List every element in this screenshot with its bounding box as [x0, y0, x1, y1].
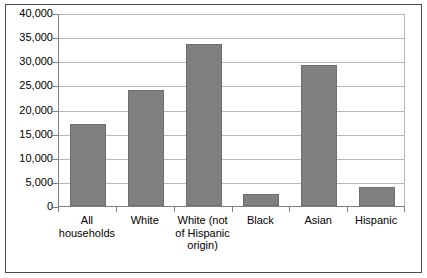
y-axis-tick-mark — [53, 135, 58, 136]
x-axis-tick-mark — [232, 207, 233, 212]
gridline — [59, 111, 404, 112]
x-axis-ticks — [58, 207, 405, 213]
y-axis-tick-mark — [53, 111, 58, 112]
y-axis-tick-label: 25,000 — [19, 80, 53, 91]
y-axis-tick-mark — [53, 62, 58, 63]
x-axis-tick-mark — [58, 207, 59, 212]
bar — [301, 65, 337, 206]
y-axis-tick-mark — [53, 38, 58, 39]
x-axis-tick-mark — [289, 207, 290, 212]
plot-area — [58, 14, 405, 207]
gridline — [59, 159, 404, 160]
x-axis-tick-mark — [404, 207, 405, 212]
y-axis-tick-mark — [53, 86, 58, 87]
y-axis-tick-label: 15,000 — [19, 129, 53, 140]
x-axis-tick-label: Allhouseholds — [58, 214, 116, 239]
x-axis-tick-label: Hispanic — [347, 214, 405, 227]
gridline — [59, 183, 404, 184]
y-axis-tick-label: 35,000 — [19, 32, 53, 43]
gridline — [59, 86, 404, 87]
bar-chart-figure: 05,00010,00015,00020,00025,00030,00035,0… — [0, 0, 427, 278]
bar — [186, 44, 222, 206]
gridline — [59, 135, 404, 136]
y-axis-tick-mark — [53, 14, 58, 15]
y-axis-tick-label: 5,000 — [25, 177, 53, 188]
y-axis-tick-label: 20,000 — [19, 105, 53, 116]
bar — [128, 90, 164, 206]
y-axis-tick-mark — [53, 183, 58, 184]
y-axis-tick-mark — [53, 207, 58, 208]
x-axis-tick-mark — [347, 207, 348, 212]
y-axis-tick-label: 30,000 — [19, 56, 53, 67]
gridline — [59, 62, 404, 63]
y-axis-tick-label: 10,000 — [19, 153, 53, 164]
y-axis-tick-mark — [53, 159, 58, 160]
x-axis-tick-label: Asian — [289, 214, 347, 227]
bar — [243, 194, 279, 206]
bar — [359, 187, 395, 206]
x-axis-tick-label: White — [116, 214, 174, 227]
y-axis-tick-label: 40,000 — [19, 8, 53, 19]
x-axis-tick-mark — [174, 207, 175, 212]
x-axis-tick-label: White (notof Hispanicorigin) — [174, 214, 232, 252]
x-axis-tick-mark — [116, 207, 117, 212]
gridline — [59, 14, 404, 15]
bar — [70, 124, 106, 206]
y-axis: 05,00010,00015,00020,00025,00030,00035,0… — [0, 0, 53, 278]
gridline — [59, 38, 404, 39]
x-axis-labels: AllhouseholdsWhiteWhite (notof Hispanico… — [58, 214, 405, 272]
x-axis-tick-label: Black — [232, 214, 290, 227]
